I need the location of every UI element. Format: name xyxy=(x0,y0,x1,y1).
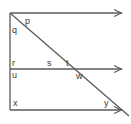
angle-label-p: p xyxy=(25,17,30,26)
transversal-line xyxy=(10,13,129,116)
angle-label-r: r xyxy=(12,59,15,68)
angle-label-y: y xyxy=(104,99,109,108)
angle-label-q: q xyxy=(12,26,17,35)
angle-label-t: t xyxy=(66,59,69,68)
angle-label-w: w xyxy=(76,72,83,81)
angle-label-x: x xyxy=(13,99,18,108)
angle-label-s: s xyxy=(47,59,52,68)
geometry-figure: p q r s t u w x y xyxy=(0,0,131,124)
angle-label-u: u xyxy=(12,71,17,80)
